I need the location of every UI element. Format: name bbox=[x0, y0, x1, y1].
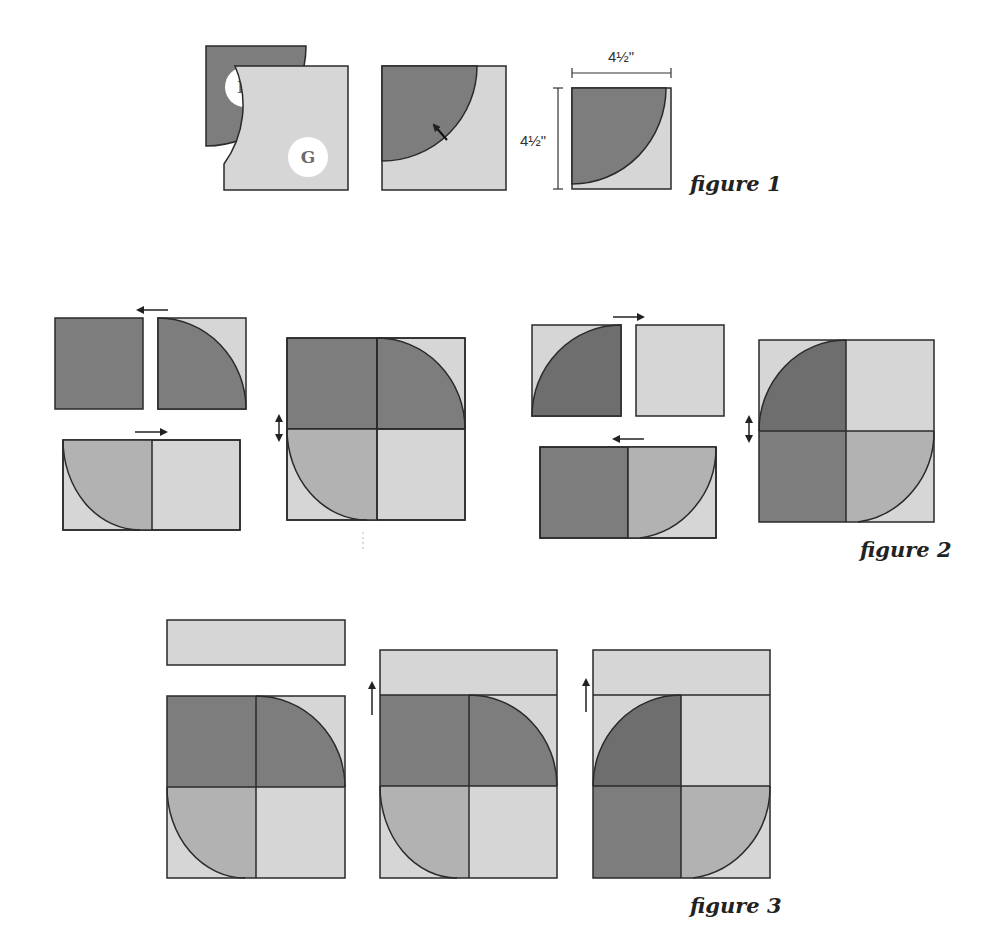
top-strip bbox=[167, 620, 345, 665]
height-dimension-label: 4½" bbox=[520, 132, 546, 149]
block-a bbox=[167, 696, 345, 878]
figure-2-caption: figure 2 bbox=[858, 537, 952, 562]
figure-2-left bbox=[55, 310, 465, 550]
bottom-row-pair bbox=[63, 440, 240, 530]
diagram-canvas: H G 4½" bbox=[0, 0, 982, 926]
quarter-circle-square-top bbox=[532, 325, 621, 416]
height-dimension-line bbox=[553, 88, 563, 189]
trimmed-block: 4½" 4½" bbox=[520, 48, 671, 189]
figure-2-right: figure 2 bbox=[532, 317, 952, 562]
assembled-block-b bbox=[759, 340, 934, 522]
figure-1: H G 4½" bbox=[206, 46, 782, 196]
width-dimension-label: 4½" bbox=[608, 48, 634, 65]
block-b-with-strip bbox=[593, 650, 770, 878]
block-a-with-strip bbox=[380, 650, 557, 878]
dark-square bbox=[55, 318, 143, 409]
bottom-row-pair bbox=[540, 447, 716, 538]
figure-1-caption: figure 1 bbox=[688, 171, 782, 196]
figure-3-caption: figure 3 bbox=[688, 893, 782, 918]
light-square bbox=[636, 325, 724, 416]
piece-g: G bbox=[224, 66, 348, 190]
piece-g-label: G bbox=[301, 147, 316, 167]
sewn-block bbox=[382, 66, 506, 190]
quarter-circle-square-top bbox=[158, 318, 246, 409]
assembled-block-a bbox=[287, 338, 465, 520]
figure-3: figure 3 bbox=[167, 620, 782, 918]
width-dimension-line bbox=[572, 68, 671, 78]
